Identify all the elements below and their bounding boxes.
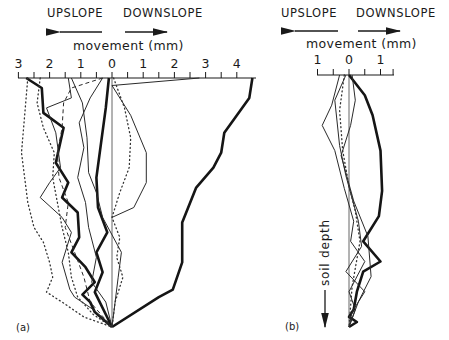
panel-b-axis-title: movement (mm) — [306, 36, 417, 51]
panel-b-soil-depth-label: soil depth — [318, 219, 332, 286]
x-tick-label: 1 — [77, 56, 85, 71]
x-tick-label: 0 — [108, 56, 116, 71]
movement-profile-line — [112, 78, 131, 327]
panel-a-profiles — [22, 78, 253, 327]
panel-b-downslope-label: DOWNSLOPE — [356, 6, 436, 20]
panel-a-axis-title: movement (mm) — [73, 38, 184, 53]
x-tick-label: 2 — [46, 56, 54, 71]
x-tick-label: 3 — [14, 56, 22, 71]
x-tick-label: 2 — [170, 56, 178, 71]
figure-canvas: UPSLOPE DOWNSLOPE movement (mm) 32101234… — [0, 0, 449, 340]
x-tick-label: 4 — [233, 56, 241, 71]
panel-b-upslope-label: UPSLOPE — [281, 6, 337, 20]
x-tick-label: 3 — [202, 56, 210, 71]
panel-a-tick-labels: 32101234 — [14, 56, 240, 71]
panel-a-x-axis — [18, 72, 256, 327]
panel-b-tick-labels: 101 — [314, 52, 385, 67]
x-tick-label: 1 — [377, 52, 385, 67]
movement-profile-line — [112, 78, 252, 327]
panel-a: UPSLOPE DOWNSLOPE movement (mm) 32101234… — [14, 6, 256, 333]
panel-a-upslope-label: UPSLOPE — [47, 6, 103, 20]
panel-b-label: (b) — [285, 321, 299, 332]
movement-profile-line — [112, 78, 199, 217]
panel-b-profiles — [322, 75, 382, 327]
panel-a-downslope-label: DOWNSLOPE — [123, 6, 203, 20]
x-tick-label: 1 — [139, 56, 147, 71]
panel-b: UPSLOPE DOWNSLOPE movement (mm) 101 soil… — [281, 6, 436, 332]
panel-a-label: (a) — [16, 322, 30, 333]
movement-profile-line — [40, 78, 112, 327]
x-tick-label: 0 — [345, 52, 353, 67]
movement-profile-line — [341, 75, 371, 327]
x-tick-label: 1 — [314, 52, 322, 67]
